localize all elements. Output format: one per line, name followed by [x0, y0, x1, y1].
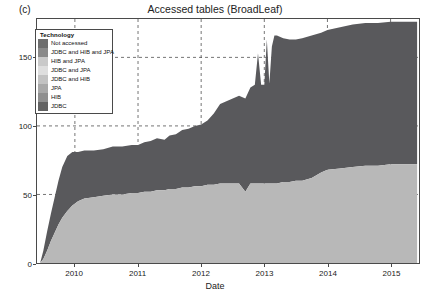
- legend-swatch-icon: [38, 48, 48, 57]
- x-tick-label: 2014: [319, 269, 337, 278]
- legend-item-label: JDBC: [51, 102, 67, 111]
- x-tick-label: 2012: [192, 269, 210, 278]
- legend-title: Technology: [40, 32, 110, 38]
- x-tick-mark: [328, 264, 329, 267]
- legend-item: JPA: [38, 84, 110, 93]
- legend-swatch-icon: [38, 66, 48, 75]
- y-tick-label: 50: [8, 191, 32, 200]
- legend-item: JDBC and HIB and JPA: [38, 48, 110, 57]
- x-tick-mark: [391, 264, 392, 267]
- y-tick-label: 150: [8, 53, 32, 62]
- y-tick-label: 100: [8, 122, 32, 131]
- legend-swatch-icon: [38, 57, 48, 66]
- x-tick-mark: [138, 264, 139, 267]
- legend-swatch-icon: [38, 84, 48, 93]
- legend-item: JDBC: [38, 102, 110, 111]
- x-tick-mark: [264, 264, 265, 267]
- legend-item: Not accessed: [38, 39, 110, 48]
- x-tick-label: 2011: [129, 269, 146, 278]
- x-tick-label: 2010: [65, 269, 83, 278]
- x-tick-label: 2015: [383, 269, 401, 278]
- legend-swatch-icon: [38, 93, 48, 102]
- y-tick-label: 0: [8, 260, 32, 269]
- legend-item-label: JDBC and HIB and JPA: [51, 48, 114, 57]
- x-axis-title: Date: [0, 281, 430, 291]
- legend-item: HIB: [38, 93, 110, 102]
- legend-swatch-icon: [38, 75, 48, 84]
- legend-item: JDBC and JPA: [38, 66, 110, 75]
- legend-swatch-icon: [38, 102, 48, 111]
- legend-item-label: Not accessed: [51, 39, 87, 48]
- legend: Technology Not accessedJDBC and HIB and …: [35, 29, 113, 114]
- legend-item-label: JDBC and HIB: [51, 75, 90, 84]
- legend-swatch-icon: [38, 39, 48, 48]
- legend-item-label: HIB: [51, 93, 61, 102]
- legend-rows: Not accessedJDBC and HIB and JPAHIB and …: [38, 39, 110, 111]
- x-tick-label: 2013: [256, 269, 274, 278]
- chart-figure: (c) Accessed tables (BroadLeaf) Accesses…: [0, 0, 430, 297]
- legend-item-label: HIB and JPA: [51, 57, 85, 66]
- y-tick-mark: [33, 264, 36, 265]
- legend-item: HIB and JPA: [38, 57, 110, 66]
- legend-item-label: JDBC and JPA: [51, 66, 91, 75]
- chart-title: Accessed tables (BroadLeaf): [0, 3, 430, 15]
- legend-item-label: JPA: [51, 84, 62, 93]
- legend-item: JDBC and HIB: [38, 75, 110, 84]
- x-tick-mark: [74, 264, 75, 267]
- x-tick-mark: [201, 264, 202, 267]
